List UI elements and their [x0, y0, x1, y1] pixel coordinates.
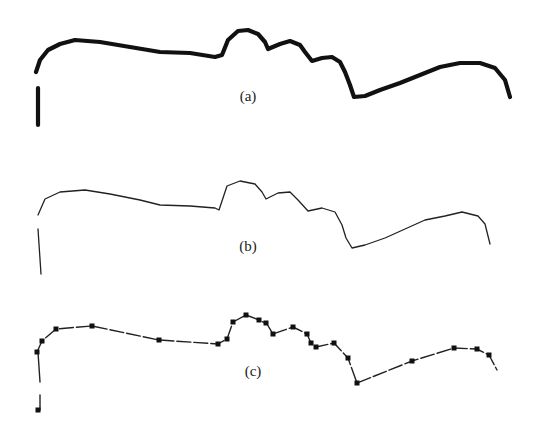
vertex-marker [487, 353, 492, 358]
vertex-marker [452, 346, 457, 351]
vertex-marker [225, 337, 230, 342]
vertex-marker [291, 325, 296, 330]
curve-b-stem [38, 229, 41, 274]
vertex-marker [216, 342, 221, 347]
vertex-marker [410, 359, 415, 364]
panel-c-label: (c) [245, 363, 262, 380]
vertex-marker [36, 408, 41, 413]
vertex-marker [257, 318, 262, 323]
vertex-marker [332, 341, 337, 346]
vertex-marker [90, 324, 95, 329]
vertex-marker [346, 356, 351, 361]
panel-c: (c) [35, 313, 498, 413]
panel-a-label: (a) [240, 88, 257, 105]
panel-b-label: (b) [239, 238, 257, 255]
vertex-marker [271, 332, 276, 337]
vertex-marker [305, 332, 310, 337]
vertex-marker [309, 341, 314, 346]
figure-canvas: (a) (b) (c) [0, 0, 546, 437]
curve-c-stem [38, 352, 40, 382]
panel-b: (b) [38, 181, 490, 274]
vertex-marker [231, 320, 236, 325]
curve-a-contour [36, 30, 510, 97]
vertex-marker [157, 338, 162, 343]
curve-b-contour [38, 181, 490, 248]
vertex-marker [244, 313, 249, 318]
panel-a: (a) [36, 30, 510, 125]
vertex-marker [314, 345, 319, 350]
vertex-marker [355, 381, 360, 386]
curve-c-markers [35, 313, 492, 413]
vertex-marker [35, 350, 40, 355]
vertex-marker [40, 339, 45, 344]
vertex-marker [475, 347, 480, 352]
vertex-marker [54, 327, 59, 332]
vertex-marker [264, 321, 269, 326]
